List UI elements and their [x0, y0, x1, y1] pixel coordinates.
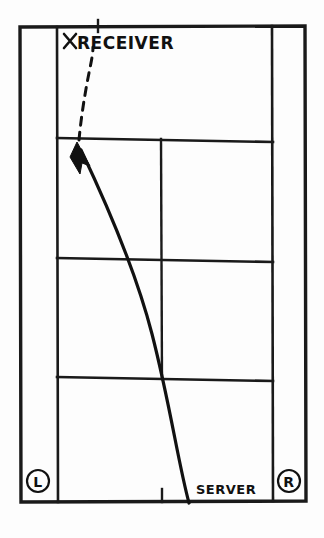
serve-trajectory-solid-group [70, 142, 189, 503]
serve-trajectory-solid [81, 150, 189, 503]
right-court-marker-group: R [278, 470, 300, 492]
court-diagram-svg: RECEIVER SERVER L R [0, 0, 324, 538]
center-service-line [161, 139, 162, 379]
receiver-label: RECEIVER [77, 33, 174, 53]
service-line-near [57, 138, 273, 142]
singles-sideline-right [272, 26, 273, 501]
serve-trajectory-dashed [79, 47, 93, 140]
server-label-group: SERVER [196, 482, 256, 497]
left-court-marker-group: L [27, 470, 49, 492]
left-marker-label: L [33, 474, 42, 490]
serve-trajectory-dashed-group [79, 47, 93, 140]
x-mark-icon [64, 34, 76, 48]
center-service-line-group [161, 139, 162, 379]
outer-boundary-path [20, 26, 306, 502]
singles-sideline-left [57, 27, 58, 502]
net-line [57, 258, 273, 262]
server-label: SERVER [196, 482, 256, 497]
receiver-marker-group: RECEIVER [64, 33, 174, 53]
court-outer-boundary [20, 26, 306, 502]
tennis-serve-diagram: RECEIVER SERVER L R [0, 0, 324, 538]
court-cross-lines [57, 138, 273, 381]
serve-trajectory-arrowhead [70, 142, 90, 174]
service-line-far [57, 377, 273, 381]
singles-sidelines [57, 26, 273, 502]
right-marker-label: R [283, 474, 294, 490]
